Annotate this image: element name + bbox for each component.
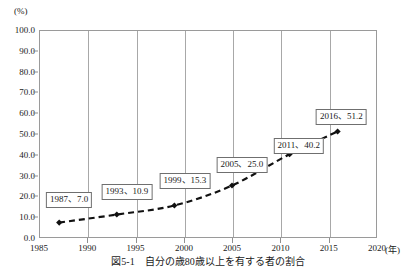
y-tick-label-100.0: 100.0 (1, 25, 35, 35)
data-label-2016: 2016、51.2 (316, 109, 367, 125)
figure-chart-population-share: (%) 0.010.020.030.040.050.060.070.080.09… (0, 0, 416, 267)
y-tick-label-80.0: 80.0 (1, 67, 35, 77)
x-tick-mark-2005 (232, 238, 233, 243)
y-tick-mark-50.0 (33, 134, 38, 135)
y-tick-mark-80.0 (33, 71, 38, 72)
y-tick-label-10.0: 10.0 (1, 212, 35, 222)
x-tick-mark-2000 (184, 238, 185, 243)
y-tick-label-60.0: 60.0 (1, 108, 35, 118)
data-label-1993: 1993、10.9 (102, 184, 153, 200)
data-callout-labels: 1987、7.01993、10.91999、15.32005、25.02011、… (40, 31, 376, 237)
data-label-2011: 2011、40.2 (274, 138, 324, 154)
y-tick-mark-40.0 (33, 154, 38, 155)
x-tick-label-1990: 1990 (67, 243, 107, 253)
y-tick-label-40.0: 40.0 (1, 150, 35, 160)
y-tick-label-90.0: 90.0 (1, 46, 35, 56)
y-axis-unit-label: (%) (14, 6, 28, 16)
y-tick-mark-20.0 (33, 196, 38, 197)
data-label-1999: 1999、15.3 (160, 173, 211, 189)
y-tick-label-30.0: 30.0 (1, 171, 35, 181)
y-tick-label-50.0: 50.0 (1, 129, 35, 139)
x-tick-label-1995: 1995 (116, 243, 156, 253)
y-tick-label-0.0: 0.0 (1, 233, 35, 243)
x-tick-label-2015: 2015 (309, 243, 349, 253)
y-tick-mark-30.0 (33, 175, 38, 176)
y-tick-mark-60.0 (33, 113, 38, 114)
x-tick-mark-2010 (280, 238, 281, 243)
x-tick-label-1985: 1985 (19, 243, 59, 253)
x-tick-label-2000: 2000 (164, 243, 204, 253)
x-tick-label-2005: 2005 (212, 243, 252, 253)
y-tick-label-20.0: 20.0 (1, 191, 35, 201)
x-tick-mark-1990 (87, 238, 88, 243)
y-tick-mark-10.0 (33, 217, 38, 218)
y-tick-mark-70.0 (33, 92, 38, 93)
data-label-1987: 1987、7.0 (46, 192, 92, 208)
data-label-2005: 2005、25.0 (216, 157, 267, 173)
x-tick-mark-2015 (329, 238, 330, 243)
plot-area: 1987、7.01993、10.91999、15.32005、25.02011、… (39, 30, 377, 238)
x-tick-label-2010: 2010 (260, 243, 300, 253)
x-tick-mark-1995 (136, 238, 137, 243)
figure-caption: 図5-1 自分の歳80歳以上を有する者の割合 (0, 253, 416, 267)
y-tick-mark-90.0 (33, 50, 38, 51)
y-tick-label-70.0: 70.0 (1, 87, 35, 97)
